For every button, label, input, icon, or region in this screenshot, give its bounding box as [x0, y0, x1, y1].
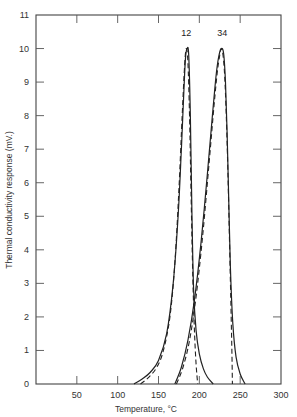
y-tick-label: 1	[24, 345, 29, 355]
y-tick-label: 0	[24, 379, 29, 389]
peak-label-34: 34	[217, 28, 227, 38]
peak-label-12: 12	[181, 28, 191, 38]
y-tick-label: 3	[24, 278, 29, 288]
y-tick-label: 7	[24, 144, 29, 154]
x-tick-label: 300	[273, 390, 288, 400]
x-tick-label: 50	[72, 390, 82, 400]
y-tick-label: 5	[24, 211, 29, 221]
y-tick-label: 10	[19, 44, 29, 54]
curve-3-solid	[175, 48, 245, 384]
y-tick-label: 11	[20, 10, 29, 20]
x-tick-label: 250	[233, 390, 248, 400]
y-axis-title: Thermal conductivity response (mV.)	[4, 131, 14, 269]
data-curves	[134, 47, 245, 384]
plot-border	[36, 15, 281, 384]
x-tick-label: 150	[151, 390, 166, 400]
curve-1-solid	[134, 47, 213, 384]
y-tick-label: 8	[24, 111, 29, 121]
curve-4-dashed	[176, 49, 232, 384]
axis-ticks	[36, 15, 281, 384]
x-tick-label: 100	[110, 390, 125, 400]
x-tick-label: 200	[192, 390, 207, 400]
y-tick-label: 9	[24, 77, 29, 87]
plot-frame	[36, 15, 281, 384]
x-axis-title: Temperature, °C	[115, 404, 177, 414]
peak-annotations: 1234	[181, 28, 227, 38]
axis-tick-labels: 5010015020025030001234567891011	[19, 10, 289, 400]
chart-figure: 5010015020025030001234567891011 1234 Tem…	[0, 0, 297, 417]
y-tick-label: 2	[24, 312, 29, 322]
y-tick-label: 6	[24, 178, 29, 188]
y-tick-label: 4	[24, 245, 29, 255]
